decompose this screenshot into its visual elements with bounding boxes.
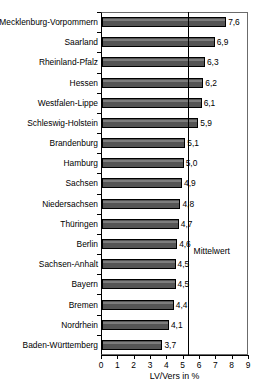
bar-value-label: 4,7 — [179, 219, 193, 229]
y-axis-tick — [97, 113, 101, 114]
chart-row: Rheinland-Pfalz6,3 — [0, 52, 270, 72]
chart-row: Sachsen4,9 — [0, 173, 270, 193]
bar-value-label: 4,4 — [174, 300, 188, 310]
y-axis-tick — [97, 274, 101, 275]
x-axis-tick — [199, 355, 200, 359]
bar — [102, 320, 169, 330]
x-axis-tick-label: 5 — [176, 360, 190, 370]
y-axis-tick — [97, 194, 101, 195]
bar — [102, 199, 180, 209]
bar — [102, 300, 174, 310]
bar — [102, 138, 185, 148]
bar — [102, 340, 162, 350]
y-axis-tick — [97, 294, 101, 295]
category-label: Hessen — [70, 78, 98, 88]
chart-row: Sachsen-Anhalt4,5 — [0, 254, 270, 274]
chart-row: Bremen4,4 — [0, 294, 270, 314]
bar-highlight — [103, 160, 183, 162]
x-axis-tick-label: 8 — [225, 360, 239, 370]
bar-value-label: 3,7 — [162, 340, 176, 350]
x-axis-tick-label: 1 — [110, 360, 124, 370]
bar — [102, 279, 176, 289]
bar-value-label: 4,6 — [177, 239, 191, 249]
bar-value-label: 6,2 — [203, 78, 217, 88]
category-label: Mecklenburg-Vorpommern — [0, 17, 98, 27]
chart-row: Brandenburg5,1 — [0, 133, 270, 153]
bar — [102, 37, 215, 47]
category-label: Sachsen — [65, 178, 98, 188]
bar-value-label: 6,3 — [205, 57, 219, 67]
category-label: Baden-Württemberg — [23, 340, 98, 350]
x-axis-tick — [232, 355, 233, 359]
cut-off-title-remnant — [120, 0, 230, 7]
bar-highlight — [103, 221, 178, 223]
x-axis-tick — [117, 355, 118, 359]
bar — [102, 239, 177, 249]
y-axis-tick — [97, 153, 101, 154]
bar-value-label: 7,6 — [226, 17, 240, 27]
bar — [102, 57, 205, 67]
bar — [102, 17, 226, 27]
chart-row: Mecklenburg-Vorpommern7,6 — [0, 12, 270, 32]
bar-highlight — [103, 120, 197, 122]
chart-row: Hamburg5,0 — [0, 153, 270, 173]
bar-highlight — [103, 140, 184, 142]
y-axis-tick — [97, 93, 101, 94]
bar-highlight — [103, 322, 168, 324]
bar-highlight — [103, 180, 181, 182]
x-axis-tick — [134, 355, 135, 359]
x-axis-tick-label: 4 — [159, 360, 173, 370]
category-label: Niedersachsen — [42, 199, 98, 209]
chart-row: Thüringen4,7 — [0, 214, 270, 234]
x-axis-tick-label: 9 — [241, 360, 255, 370]
y-axis-tick — [97, 73, 101, 74]
bar-value-label: 6,9 — [215, 37, 229, 47]
x-axis-tick-label: 3 — [143, 360, 157, 370]
x-axis-tick — [183, 355, 184, 359]
bar-value-label: 6,1 — [202, 98, 216, 108]
category-label: Schleswig-Holstein — [27, 118, 98, 128]
bar — [102, 118, 198, 128]
x-axis-tick-label: 2 — [127, 360, 141, 370]
bar-highlight — [103, 201, 179, 203]
bar-highlight — [103, 281, 175, 283]
x-axis-title: LV/Vers in % — [101, 371, 248, 382]
bar — [102, 259, 176, 269]
category-label: Sachsen-Anhalt — [39, 259, 98, 269]
bar-value-label: 5,9 — [198, 118, 212, 128]
y-axis-tick — [97, 32, 101, 33]
y-axis-tick — [97, 315, 101, 316]
bar — [102, 219, 179, 229]
bar-value-label: 4,9 — [182, 178, 196, 188]
bar-value-label: 4,1 — [169, 320, 183, 330]
bar-highlight — [103, 59, 204, 61]
category-label: Berlin — [77, 239, 98, 249]
x-axis-tick — [215, 355, 216, 359]
y-axis-tick — [97, 173, 101, 174]
x-axis-tick — [166, 355, 167, 359]
x-axis-tick-label: 6 — [192, 360, 206, 370]
bar-highlight — [103, 302, 173, 304]
category-label: Saarland — [64, 37, 98, 47]
category-label: Nordrhein — [61, 320, 98, 330]
chart-row: Baden-Württemberg3,7 — [0, 335, 270, 355]
category-label: Rheinland-Pfalz — [39, 57, 98, 67]
chart-row: Westfalen-Lippe6,1 — [0, 93, 270, 113]
category-label: Bremen — [69, 300, 98, 310]
bar-value-label: 5,0 — [184, 158, 198, 168]
category-label: Brandenburg — [50, 138, 98, 148]
y-axis-tick — [97, 234, 101, 235]
x-axis-tick-label: 0 — [94, 360, 108, 370]
y-axis-tick — [97, 335, 101, 336]
bar-highlight — [103, 261, 175, 263]
bar — [102, 178, 182, 188]
bar-chart: Mecklenburg-Vorpommern7,6Saarland6,9Rhei… — [0, 0, 270, 386]
bar-highlight — [103, 19, 225, 21]
x-axis-line — [101, 355, 248, 356]
category-label: Hamburg — [64, 158, 98, 168]
mean-label: Mittelwert — [194, 246, 230, 256]
bar-highlight — [103, 100, 201, 102]
y-axis-tick — [97, 254, 101, 255]
chart-row: Hessen6,2 — [0, 73, 270, 93]
y-axis-tick — [97, 133, 101, 134]
